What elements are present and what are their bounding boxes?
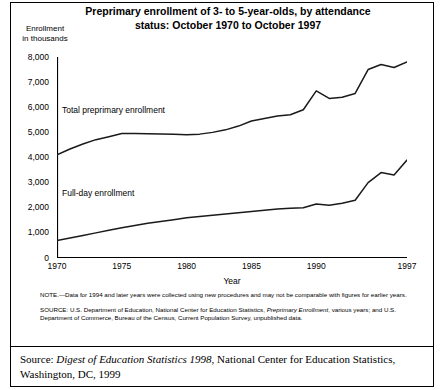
figure-divider — [10, 346, 434, 347]
chart-canvas — [57, 57, 407, 258]
note-text: NOTE.—Data for 1994 and later years were… — [40, 291, 418, 299]
y-axis-caption: Enrollment in thousands — [14, 24, 76, 44]
figure-notes: NOTE.—Data for 1994 and later years were… — [40, 291, 418, 323]
figure-root: Preprimary enrollment of 3- to 5-year-ol… — [0, 0, 444, 390]
x-tick-label: 1975 — [102, 262, 142, 271]
y-tick-label: 5,000 — [15, 128, 49, 137]
x-tick-label: 1990 — [296, 262, 336, 271]
series-line-full-day — [57, 160, 407, 240]
citation-prefix: Source: — [20, 353, 56, 365]
y-axis-caption-line-1: Enrollment — [14, 24, 76, 34]
y-tick-label: 8,000 — [15, 53, 49, 62]
series-label-total: Total preprimary enrollment — [62, 105, 165, 115]
plot-area — [57, 57, 407, 258]
series-label-full-day: Full-day enrollment — [62, 188, 134, 198]
chart-title-line-1: Preprimary enrollment of 3- to 5-year-ol… — [48, 4, 408, 18]
y-tick-label: 2,000 — [15, 203, 49, 212]
x-tick-label: 1997 — [387, 262, 427, 271]
source-text: SOURCE: U.S. Department of Education, Na… — [40, 306, 418, 322]
y-tick-label: 6,000 — [15, 103, 49, 112]
chart-title: Preprimary enrollment of 3- to 5-year-ol… — [48, 4, 408, 32]
figure-citation: Source: Digest of Education Statistics 1… — [20, 352, 420, 382]
chart-title-line-2: status: October 1970 to October 1997 — [48, 18, 408, 32]
y-tick-label: 1,000 — [15, 228, 49, 237]
x-axis-label: Year — [57, 276, 407, 286]
y-tick-label: 3,000 — [15, 178, 49, 187]
x-tick-label: 1985 — [231, 262, 271, 271]
y-axis-caption-line-2: in thousands — [14, 34, 76, 44]
x-tick-label: 1970 — [37, 262, 77, 271]
citation-title: Digest of Education Statistics 1998 — [56, 353, 211, 365]
source-title: Preprimary Enrollment — [267, 306, 329, 313]
x-tick-label: 1980 — [167, 262, 207, 271]
y-tick-label: 4,000 — [15, 153, 49, 162]
source-prefix: SOURCE: U.S. Department of Education, Na… — [40, 306, 267, 313]
y-tick-label: 7,000 — [15, 78, 49, 87]
